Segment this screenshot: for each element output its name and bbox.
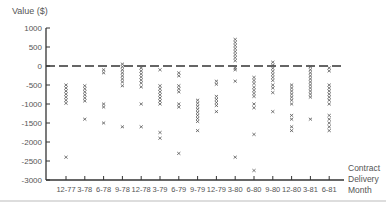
x-tick-label: 6-80: [246, 185, 261, 194]
x-axis-label-line: Delivery: [348, 174, 379, 184]
x-marker: [328, 70, 331, 73]
y-tick-label: -1500: [22, 119, 43, 128]
x-marker: [83, 84, 86, 87]
x-marker: [328, 125, 331, 128]
x-marker: [177, 106, 180, 109]
x-marker: [196, 111, 199, 114]
x-marker: [121, 68, 124, 71]
x-marker: [252, 86, 255, 89]
x-tick-label: 3-80: [228, 185, 243, 194]
x-marker: [102, 106, 105, 109]
x-marker: [328, 118, 331, 121]
x-marker: [196, 114, 199, 117]
x-marker: [252, 89, 255, 92]
x-marker: [309, 118, 312, 121]
x-marker: [64, 156, 67, 159]
x-tick-label: 6-78: [96, 185, 111, 194]
x-marker: [140, 82, 143, 85]
x-marker: [177, 74, 180, 77]
x-marker: [158, 97, 161, 100]
x-marker: [290, 84, 293, 87]
x-marker: [215, 95, 218, 98]
x-marker: [271, 91, 274, 94]
x-marker: [309, 90, 312, 93]
x-marker: [328, 129, 331, 132]
x-tick-label: 12-79: [207, 185, 226, 194]
y-tick-label: -1000: [22, 100, 43, 109]
x-marker: [158, 84, 161, 87]
x-tick-label: 9-80: [265, 185, 280, 194]
x-marker: [271, 79, 274, 82]
x-marker: [234, 59, 237, 62]
x-marker: [140, 67, 143, 70]
x-marker: [252, 82, 255, 85]
x-marker: [121, 74, 124, 77]
x-marker: [158, 131, 161, 134]
x-marker: [290, 90, 293, 93]
x-marker: [252, 79, 255, 82]
x-marker: [177, 84, 180, 87]
x-marker: [196, 117, 199, 120]
x-marker: [271, 61, 274, 64]
x-marker: [158, 90, 161, 93]
x-marker: [309, 71, 312, 74]
x-marker: [234, 50, 237, 53]
x-tick-label: 9-79: [190, 185, 205, 194]
x-marker: [309, 87, 312, 90]
x-marker: [271, 76, 274, 79]
x-marker: [158, 87, 161, 90]
x-marker: [140, 76, 143, 79]
x-marker: [309, 96, 312, 99]
x-marker: [328, 96, 331, 99]
x-marker: [309, 81, 312, 84]
x-marker: [158, 68, 161, 71]
x-tick-label: 6-79: [171, 185, 186, 194]
x-marker: [196, 129, 199, 132]
x-marker: [271, 110, 274, 113]
x-marker: [177, 103, 180, 106]
y-tick-label: 500: [29, 43, 43, 52]
data-points: [64, 38, 330, 172]
x-marker: [328, 122, 331, 125]
x-marker: [121, 125, 124, 128]
x-marker: [252, 103, 255, 106]
x-marker: [215, 83, 218, 86]
x-marker: [140, 70, 143, 73]
x-marker: [177, 87, 180, 90]
x-marker: [328, 103, 331, 106]
x-marker: [64, 87, 67, 90]
x-marker: [158, 103, 161, 106]
x-marker: [177, 71, 180, 74]
x-marker: [64, 84, 67, 87]
x-tick-label: 9-78: [115, 185, 130, 194]
x-marker: [64, 90, 67, 93]
x-marker: [328, 99, 331, 102]
x-marker: [309, 93, 312, 96]
scatter-chart: Value ($) 10005000-500-1000-1500-2000-25…: [0, 0, 386, 204]
x-marker: [290, 103, 293, 106]
x-tick-label: 12-80: [282, 185, 301, 194]
x-marker: [328, 93, 331, 96]
x-marker: [177, 90, 180, 93]
x-marker: [215, 110, 218, 113]
x-axis-label-line: Month: [348, 185, 372, 195]
x-marker: [234, 53, 237, 56]
x-marker: [271, 87, 274, 90]
x-marker: [121, 71, 124, 74]
x-marker: [83, 90, 86, 93]
x-marker: [271, 73, 274, 76]
x-marker: [64, 99, 67, 102]
x-marker: [252, 106, 255, 109]
x-marker: [121, 65, 124, 68]
x-marker: [177, 152, 180, 155]
x-marker: [64, 96, 67, 99]
x-marker: [328, 67, 331, 70]
x-marker: [328, 90, 331, 93]
x-marker: [196, 105, 199, 108]
x-marker: [140, 73, 143, 76]
x-tick-label: 3-81: [303, 185, 318, 194]
x-marker: [121, 63, 124, 66]
x-marker: [158, 93, 161, 96]
x-marker: [290, 125, 293, 128]
y-tick-label: -3000: [22, 176, 43, 185]
